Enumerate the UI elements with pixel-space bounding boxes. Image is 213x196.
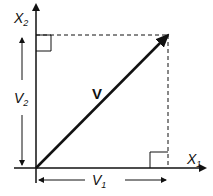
component-v1-label: V1 xyxy=(92,172,106,190)
y-axis-label: X2 xyxy=(13,10,28,28)
right-angle-marker-bottom xyxy=(150,152,168,168)
right-angle-marker-top xyxy=(36,35,51,51)
vector-diagram: X2 X1 V V2 V1 xyxy=(0,0,213,196)
component-v2-label: V2 xyxy=(14,90,28,108)
x-axis-label: X1 xyxy=(186,151,201,169)
vector-label: V xyxy=(92,85,102,102)
